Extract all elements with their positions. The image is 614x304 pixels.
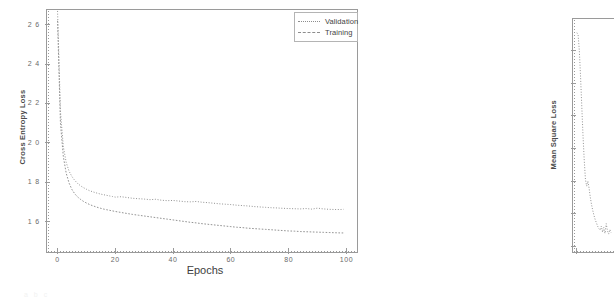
x-axis-title-left: Epochs [163, 264, 247, 276]
y-tick-label: 2 2 [8, 99, 40, 106]
x-tick-label: 100 [332, 256, 360, 263]
figure-container: Cross Entropy Loss Epochs Validation Tra… [0, 0, 614, 304]
x-tick-label: 60 [217, 256, 245, 263]
legend-item-validation: Validation [298, 16, 352, 27]
y-tick-label: 1 8 [8, 178, 40, 185]
y-tick-label: 1 6 [8, 218, 40, 225]
y-tick-label: 2 4 [8, 60, 40, 67]
caption-ghost-text: a b c [24, 291, 49, 298]
plot-area-right [520, 0, 614, 304]
y-tick-label: 2 6 [8, 21, 40, 28]
x-tick-label: 20 [101, 256, 129, 263]
x-tick-label: 40 [159, 256, 187, 263]
x-tick-label: 80 [275, 256, 303, 263]
legend-key-training-icon [298, 32, 320, 33]
y-tick-label: 2 0 [8, 139, 40, 146]
legend-left: Validation Training [294, 12, 358, 42]
chart-mean-square-loss: Mean Square Loss 0 00 10 20 30 40 50 60 [520, 0, 614, 304]
legend-item-training: Training [298, 27, 352, 38]
legend-label-training: Training [325, 28, 353, 37]
legend-label-validation: Validation [325, 17, 358, 26]
chart-cross-entropy-loss: Cross Entropy Loss Epochs Validation Tra… [0, 0, 380, 304]
y-axis-title-right: Mean Square Loss [549, 102, 558, 170]
legend-key-validation-icon [298, 21, 320, 22]
x-tick-label: 0 [44, 256, 72, 263]
